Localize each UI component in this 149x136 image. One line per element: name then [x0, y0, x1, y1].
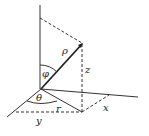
spherical-coordinates-diagram: ρ φ θ z r x y [0, 0, 149, 136]
x-axis [41, 89, 138, 97]
rho-label: ρ [61, 45, 68, 56]
y-label: y [35, 115, 42, 126]
theta-label: θ [36, 92, 42, 103]
z-projection-dash [40, 18, 82, 43]
r-line [41, 89, 82, 112]
x-label: x [103, 102, 109, 113]
z-label: z [84, 64, 91, 75]
phi-label: φ [42, 68, 49, 79]
